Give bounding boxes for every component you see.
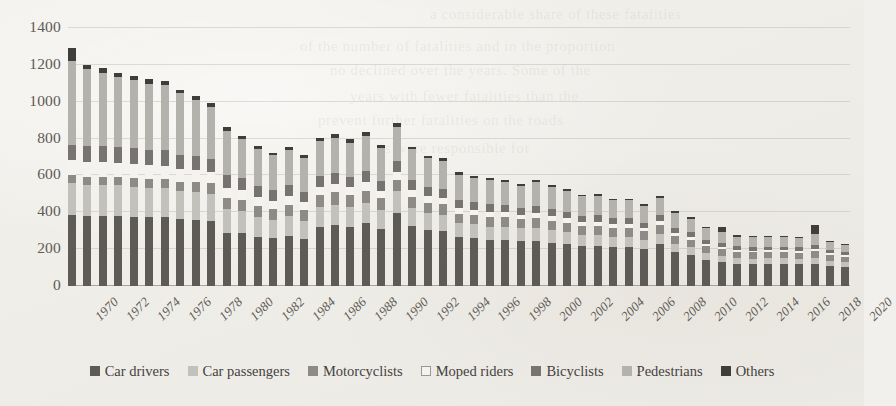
chart-legend: Car driversCar passengersMotorcyclistsMo…: [0, 358, 864, 384]
bar-segment: [671, 244, 679, 252]
bar-segment: [238, 178, 246, 190]
bar-segment: [238, 139, 246, 178]
bar-segment: [300, 202, 308, 210]
bar: [346, 28, 354, 286]
legend-item[interactable]: Moped riders: [421, 364, 514, 379]
bar: [238, 28, 246, 286]
bar-segment: [563, 232, 571, 244]
bar-segment: [795, 264, 803, 286]
bar-segment: [841, 245, 849, 252]
bar-segment: [362, 223, 370, 286]
bar: [501, 28, 509, 286]
bar-segment: [439, 189, 447, 198]
bar-segment: [130, 164, 138, 178]
bar-segment: [656, 234, 664, 244]
bar-segment: [687, 219, 695, 232]
legend-item[interactable]: Bicyclists: [531, 364, 603, 379]
bar-segment: [563, 244, 571, 286]
bar-segment: [470, 238, 478, 286]
bar-segment: [532, 241, 540, 286]
bar-segment: [331, 225, 339, 286]
legend-swatch-icon: [421, 366, 431, 376]
bar-segment: [625, 228, 633, 237]
bar: [408, 28, 416, 286]
bar-segment: [145, 165, 153, 179]
bar-segment: [609, 247, 617, 286]
bar: [161, 28, 169, 286]
legend-item[interactable]: Car drivers: [90, 364, 170, 379]
bar-segment: [609, 228, 617, 237]
bar-segment: [192, 100, 200, 155]
bar-segment: [687, 240, 695, 247]
bar: [269, 28, 277, 286]
bar-segment: [285, 216, 293, 236]
bar-segment: [346, 187, 354, 195]
bar-segment: [470, 215, 478, 224]
bar-segment: [640, 206, 648, 223]
bar-segment: [269, 238, 277, 286]
x-axis-tick-label: 2008: [680, 294, 710, 324]
bar-segment: [176, 182, 184, 192]
bar-segment: [517, 241, 525, 286]
bar-segment: [68, 183, 76, 215]
bar-segment: [377, 198, 385, 209]
bar-segment: [455, 237, 463, 286]
legend-item[interactable]: Others: [721, 364, 775, 379]
bar: [780, 28, 788, 286]
x-axis-tick-label: 1974: [154, 294, 184, 324]
bar-segment: [130, 217, 138, 286]
bar-segment: [161, 179, 169, 188]
bar-segment: [254, 186, 262, 197]
bar-segment: [548, 230, 556, 243]
bar-segment: [532, 218, 540, 228]
bar-segment: [176, 219, 184, 286]
bar-segment: [408, 180, 416, 190]
bar-segment: [702, 253, 710, 260]
bar-segment: [393, 161, 401, 171]
bar-segment: [285, 196, 293, 205]
bar-segment: [393, 127, 401, 162]
bar-segment: [207, 194, 215, 220]
legend-item[interactable]: Pedestrians: [622, 364, 703, 379]
bar-segment: [83, 177, 91, 185]
bar-segment: [161, 85, 169, 150]
bar-segment: [733, 237, 741, 247]
legend-item[interactable]: Motorcyclists: [308, 364, 403, 379]
bar: [563, 28, 571, 286]
bar-segment: [192, 192, 200, 219]
bar-segment: [223, 175, 231, 188]
y-axis-tick-label: 200: [37, 240, 61, 256]
bar-segment: [377, 148, 385, 181]
legend-item-label: Motorcyclists: [323, 364, 403, 379]
bar: [486, 28, 494, 286]
bar: [764, 28, 772, 286]
x-axis-tick-label: 1982: [278, 294, 308, 324]
x-axis-tick-label: 1970: [92, 294, 122, 324]
bar: [145, 28, 153, 286]
bar-segment: [377, 210, 385, 229]
bar-segment: [99, 216, 107, 286]
legend-swatch-icon: [188, 366, 198, 376]
legend-swatch-icon: [531, 366, 541, 376]
bar-segment: [548, 221, 556, 230]
bar-segment: [578, 196, 586, 215]
bar-segment: [114, 147, 122, 162]
bar-segment: [223, 131, 231, 175]
x-axis-tick-label: 2014: [773, 294, 803, 324]
bar-segment: [99, 73, 107, 146]
bar-segment: [269, 209, 277, 220]
page-bleed-line: a considerable share of these fatalities: [430, 6, 682, 23]
bar-segment: [486, 227, 494, 240]
legend-item[interactable]: Car passengers: [188, 364, 290, 379]
bar: [517, 28, 525, 286]
bar-segment: [455, 175, 463, 200]
bar-segment: [176, 169, 184, 182]
y-axis-tick-label: 1000: [29, 93, 61, 109]
x-axis-tick-label: 2006: [649, 294, 679, 324]
bar: [377, 28, 385, 286]
bar-segment: [439, 198, 447, 205]
bar-segment: [161, 166, 169, 179]
bar-segment: [455, 214, 463, 223]
bar: [749, 28, 757, 286]
bar-segment: [424, 203, 432, 213]
